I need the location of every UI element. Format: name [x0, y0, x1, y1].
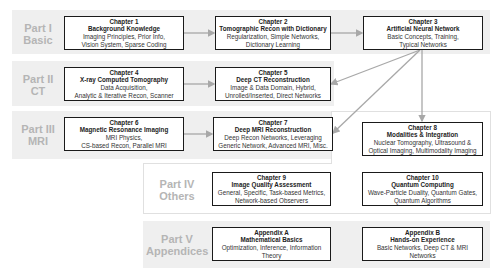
chapter-5-title: Deep CT Reconstruction: [218, 76, 328, 84]
chapter-6-number: Chapter 6: [67, 119, 181, 127]
chapter-9-topics-2: Network-based Observers: [215, 197, 328, 205]
chapter-1-number: Chapter 1: [67, 18, 181, 26]
chapter-7-topics-2: Generic Network, Advanced MRI, Misc.: [216, 142, 330, 150]
appendix-a-box: Appendix A Mathematical Basics Optimizat…: [212, 227, 331, 261]
chapter-2-number: Chapter 2: [218, 18, 328, 26]
chapter-6-title: Magnetic Resonance Imaging: [67, 126, 181, 134]
chapter-3-topics-1: Basic Concepts, Training,: [366, 33, 480, 41]
chapter-5-topics-1: Image & Data Domain, Hybrid,: [218, 84, 328, 92]
appendix-a-topics-1: Optimization, Inference, Information: [215, 244, 328, 252]
chapter-4-number: Chapter 4: [67, 69, 181, 77]
chapter-9-topics-1: General, Specific, Task-based Metrics,: [215, 189, 328, 197]
appendix-a-title: Mathematical Basics: [215, 236, 328, 244]
chapter-2-box: Chapter 2 Tomographic Recon with Diction…: [215, 16, 331, 50]
chapter-6-topics-2: CS-based Recon, Parallel MRI: [67, 142, 181, 150]
appendix-b-topics-2: Networks: [365, 252, 480, 260]
chapter-3-topics-2: Typical Networks: [366, 41, 480, 49]
chapter-1-box: Chapter 1 Background Knowledge Imaging P…: [64, 16, 184, 50]
chapter-6-box: Chapter 6 Magnetic Resonance Imaging MRI…: [64, 117, 184, 151]
appendix-a-topics-2: Theory: [215, 252, 328, 260]
chapter-10-topics-2: Quantum Algorithms: [365, 197, 480, 205]
chapter-8-topics-2: Optical Imaging, Multimodality Imaging: [365, 147, 480, 155]
chapter-7-title: Deep MRI Reconstruction: [216, 126, 330, 134]
chapter-1-topics-1: Imaging Principles, Prior Info,: [67, 33, 181, 41]
chapter-5-box: Chapter 5 Deep CT Reconstruction Image &…: [215, 67, 331, 101]
arrow-ch3-ch7: [333, 50, 420, 133]
chapter-2-topics-1: Regularization, Simple Networks,: [218, 33, 328, 41]
chapter-1-topics-2: Vision System, Sparse Coding: [67, 41, 181, 49]
chapter-9-title: Image Quality Assessment: [215, 181, 328, 189]
chapter-9-box: Chapter 9 Image Quality Assessment Gener…: [212, 172, 331, 206]
chapter-10-number: Chapter 10: [365, 174, 480, 182]
chapter-3-box: Chapter 3 Artificial Neural Network Basi…: [363, 16, 483, 50]
chapter-8-box: Chapter 8 Modalities & Integration Nucle…: [362, 122, 483, 156]
chapter-8-number: Chapter 8: [365, 124, 480, 132]
chapter-7-number: Chapter 7: [216, 119, 330, 127]
chapter-8-topics-1: Nuclear Tomography, Ultrasound &: [365, 139, 480, 147]
chapter-9-number: Chapter 9: [215, 174, 328, 182]
chapter-3-number: Chapter 3: [366, 18, 480, 26]
chapter-8-title: Modalities & Integration: [365, 131, 480, 139]
chapter-5-topics-2: Unrolled/Inserted, Direct Networks: [218, 92, 328, 100]
chapter-4-topics-1: Data Acquisition,: [67, 84, 181, 92]
appendix-b-title: Hands-on Experience: [365, 236, 480, 244]
chapter-5-number: Chapter 5: [218, 69, 328, 77]
appendix-b-topics-1: Basic Networks, Deep CT & MRI: [365, 244, 480, 252]
appendix-b-number: Appendix B: [365, 229, 480, 237]
appendix-b-box: Appendix B Hands-on Experience Basic Net…: [362, 227, 483, 261]
chapter-10-title: Quantum Computing: [365, 181, 480, 189]
chapter-4-topics-2: Analytic & Iterative Recon, Scanner: [67, 92, 181, 100]
chapter-10-topics-1: Wave-Particle Duality, Quantum Gates,: [365, 189, 480, 197]
chapter-3-title: Artificial Neural Network: [366, 25, 480, 33]
chapter-4-box: Chapter 4 X-ray Computed Tomography Data…: [64, 67, 184, 101]
chapter-1-title: Background Knowledge: [67, 25, 181, 33]
chapter-4-title: X-ray Computed Tomography: [67, 76, 181, 84]
arrow-ch3-ch5: [331, 50, 420, 84]
chapter-2-topics-2: Dictionary Learning: [218, 41, 328, 49]
appendix-a-number: Appendix A: [215, 229, 328, 237]
chapter-10-box: Chapter 10 Quantum Computing Wave-Partic…: [362, 172, 483, 206]
chapter-6-topics-1: MRI Physics,: [67, 134, 181, 142]
chapter-7-box: Chapter 7 Deep MRI Reconstruction Deep R…: [213, 117, 333, 151]
chapter-2-title: Tomographic Recon with Dictionary: [218, 25, 328, 33]
chapter-7-topics-1: Deep Recon Networks, Leveraging: [216, 134, 330, 142]
